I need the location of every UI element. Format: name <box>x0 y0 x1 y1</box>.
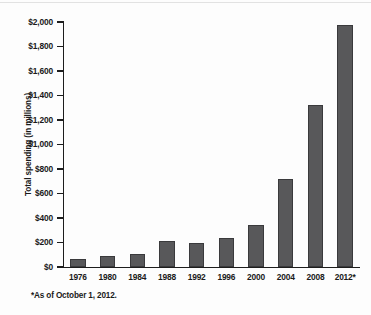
x-tick-label: 1992 <box>182 272 212 282</box>
y-tick-mark <box>57 217 63 218</box>
chart-footnote: *As of October 1, 2012. <box>31 291 117 300</box>
y-tick-label: $200 <box>0 237 53 247</box>
y-tick-label: $1,200 <box>0 115 53 125</box>
y-tick-label: $400 <box>0 213 53 223</box>
x-tick-label: 2008 <box>301 272 331 282</box>
y-tick-mark <box>57 46 63 47</box>
chart-figure: Total spending (in millions) $0$200$400$… <box>0 0 371 315</box>
bar <box>248 225 263 267</box>
bar <box>308 105 323 267</box>
y-tick-label: $1,000 <box>0 139 53 149</box>
y-tick-mark <box>57 193 63 194</box>
top-divider <box>0 2 371 3</box>
x-tick-label: 1976 <box>63 272 93 282</box>
bar <box>70 259 85 267</box>
y-tick-label: $1,800 <box>0 41 53 51</box>
bar <box>219 238 234 267</box>
y-tick-mark <box>57 21 63 22</box>
x-tick-label: 2012* <box>330 272 360 282</box>
y-tick-label: $600 <box>0 188 53 198</box>
y-tick-mark <box>57 144 63 145</box>
y-tick-mark <box>57 70 63 71</box>
y-axis-line <box>63 21 64 268</box>
y-tick-mark <box>57 119 63 120</box>
y-tick-label: $0 <box>0 262 53 272</box>
bar <box>337 25 352 267</box>
y-tick-label: $2,000 <box>0 17 53 27</box>
bar <box>130 254 145 267</box>
x-tick-label: 1988 <box>152 272 182 282</box>
y-tick-mark <box>57 242 63 243</box>
y-tick-mark <box>57 95 63 96</box>
bar <box>100 256 115 267</box>
bar <box>189 243 204 267</box>
x-tick-label: 2004 <box>271 272 301 282</box>
y-tick-label: $800 <box>0 164 53 174</box>
bar <box>159 241 174 267</box>
x-tick-label: 2000 <box>241 272 271 282</box>
bar <box>278 179 293 267</box>
y-tick-mark <box>57 266 63 267</box>
x-tick-label: 1980 <box>93 272 123 282</box>
x-tick-label: 1984 <box>122 272 152 282</box>
y-tick-mark <box>57 168 63 169</box>
y-tick-label: $1,600 <box>0 66 53 76</box>
x-axis-line <box>63 267 360 268</box>
y-tick-label: $1,400 <box>0 90 53 100</box>
x-tick-label: 1996 <box>212 272 242 282</box>
